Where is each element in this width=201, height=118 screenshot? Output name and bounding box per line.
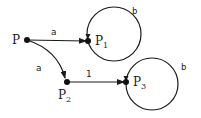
edge-label-p-p1: a <box>51 27 56 37</box>
label-p2: P2 <box>58 88 71 104</box>
node-p <box>24 37 30 43</box>
label-p3: P3 <box>133 75 146 91</box>
node-p2 <box>64 79 70 85</box>
label-p1: P1 <box>95 34 108 50</box>
node-p3 <box>123 79 129 85</box>
edge-label-loop-p3: b <box>181 62 186 72</box>
edge-label-p-p2: a <box>36 63 41 73</box>
edge-p-to-p1 <box>27 40 86 41</box>
transition-diagram: P P1 P2 P3 a a 1 b b <box>0 0 201 118</box>
edge-label-p2-p3: 1 <box>86 69 91 79</box>
edge-label-loop-p1: b <box>132 6 137 16</box>
node-p1 <box>85 38 91 44</box>
edge-p-to-p2 <box>27 40 65 78</box>
label-p: P <box>12 33 20 47</box>
